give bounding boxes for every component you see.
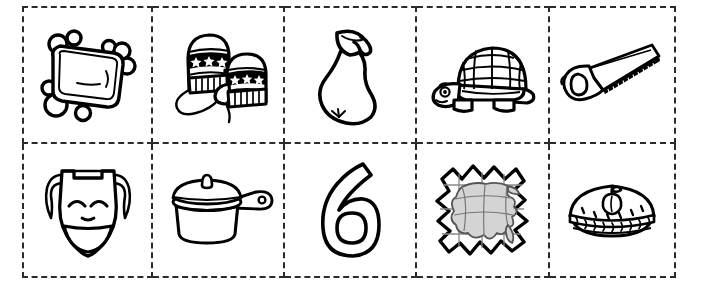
worksheet-sheet: soap bbox=[0, 0, 702, 295]
pear-icon bbox=[306, 23, 394, 127]
card-mask[interactable]: mask bbox=[22, 144, 153, 278]
numeral-six-icon bbox=[315, 158, 385, 262]
mittens-icon bbox=[165, 26, 271, 124]
card-pie[interactable]: pie bbox=[550, 144, 676, 278]
card-saw[interactable]: saw bbox=[550, 6, 676, 144]
cut-out-card-grid: soap bbox=[22, 6, 676, 278]
turtle-icon bbox=[426, 34, 540, 116]
smiling-mask-icon bbox=[38, 158, 138, 262]
handsaw-icon bbox=[556, 38, 668, 112]
card-puzzle[interactable]: puzzle bbox=[417, 144, 550, 278]
card-pear[interactable]: pear bbox=[285, 6, 417, 144]
jigsaw-puzzle-map-icon bbox=[428, 157, 538, 263]
soap-bar-with-bubbles-icon bbox=[36, 27, 140, 123]
saucepan-icon bbox=[159, 172, 277, 248]
card-turtle[interactable]: turtle bbox=[417, 6, 550, 144]
card-six[interactable]: 6 bbox=[285, 144, 417, 278]
card-mittens[interactable]: mittens bbox=[153, 6, 285, 144]
card-soap[interactable]: soap bbox=[22, 6, 153, 144]
card-pan[interactable]: pan bbox=[153, 144, 285, 278]
apple-pie-icon bbox=[561, 174, 663, 246]
